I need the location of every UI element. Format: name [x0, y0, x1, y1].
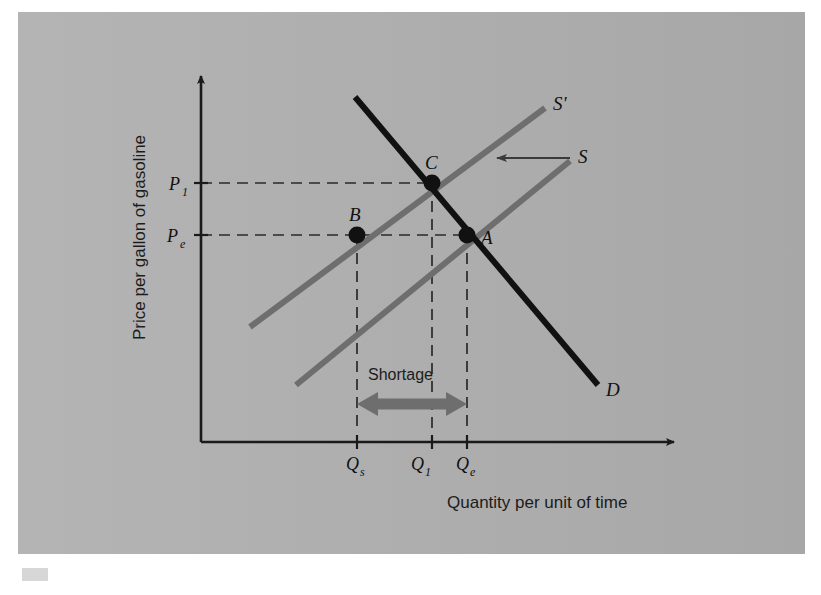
point-b-dot	[349, 227, 366, 244]
y-tick-p1-label: P	[168, 174, 180, 194]
supply-demand-chart: A B C S' S D P 1 P e Q s Q 1 Q e Shortag…	[0, 0, 821, 595]
y-tick-p1-subscript: 1	[182, 185, 188, 199]
curve-label-demand: D	[605, 379, 620, 400]
shortage-arrow-head-left	[357, 392, 378, 416]
curve-label-supply-original: S	[578, 146, 588, 167]
y-tick-labels: P 1 P e	[166, 174, 188, 251]
shortage-arrow-head-right	[446, 392, 467, 416]
curve-demand	[355, 97, 598, 385]
shortage-arrow-icon	[357, 392, 467, 416]
y-tick-pe-subscript: e	[180, 237, 186, 251]
shortage-label: Shortage	[368, 366, 433, 383]
y-tick-pe-label: P	[166, 226, 178, 246]
point-a-label: A	[479, 227, 493, 248]
x-tick-qe-subscript: e	[470, 465, 476, 479]
axis-group	[201, 76, 674, 442]
point-c-label: C	[425, 152, 438, 173]
x-tick-qe-label: Q	[456, 454, 469, 474]
point-c-dot	[424, 175, 441, 192]
figure-root: A B C S' S D P 1 P e Q s Q 1 Q e Shortag…	[0, 0, 821, 595]
x-tick-q1-label: Q	[411, 454, 424, 474]
x-tick-qs-subscript: s	[360, 465, 365, 479]
y-axis-title: Price per gallon of gasoline	[130, 135, 149, 340]
curve-label-supply-shifted: S'	[553, 93, 568, 114]
x-tick-qs-label: Q	[346, 454, 359, 474]
x-tick-labels: Q s Q 1 Q e	[346, 454, 476, 479]
point-a-dot	[459, 227, 476, 244]
guide-lines	[201, 183, 467, 432]
point-b-label: B	[349, 204, 361, 225]
x-tick-q1-subscript: 1	[425, 465, 431, 479]
x-axis-title: Quantity per unit of time	[447, 493, 627, 512]
